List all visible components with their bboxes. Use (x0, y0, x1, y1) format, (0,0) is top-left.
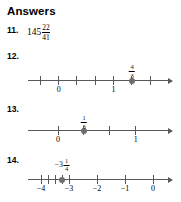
fraction-numerator: 22 (42, 24, 51, 32)
fraction-numerator: 4 (130, 64, 134, 71)
axis-tick (135, 126, 136, 135)
axis-tick (40, 76, 41, 85)
axis-tick (58, 126, 59, 135)
axis-tick (58, 76, 59, 85)
axis-tick-label: −2 (93, 184, 102, 193)
plotted-point-label: −314 (55, 153, 70, 173)
arrow-right-icon (168, 128, 173, 134)
fraction: 43 (129, 64, 135, 79)
fraction-denominator: 41 (42, 33, 51, 41)
fraction-denominator: 3 (82, 123, 86, 130)
axis-tick-label: −4 (37, 184, 46, 193)
number-line-axis (28, 179, 169, 180)
plotted-point (59, 177, 65, 183)
fraction-denominator: 4 (64, 166, 68, 173)
axis-tick (69, 175, 70, 184)
axis-tick-label: 0 (57, 85, 61, 94)
mixed-number-whole-part: 145 (27, 28, 41, 38)
axis-tick (76, 76, 77, 85)
plotted-point-label: 13 (81, 106, 88, 130)
point-value-label: 13 (81, 115, 88, 130)
number-line-axis (28, 80, 169, 81)
axis-tick (41, 175, 42, 184)
axis-tick-label: 0 (56, 135, 60, 144)
axis-tick (48, 175, 49, 184)
fraction-denominator: 3 (130, 72, 134, 79)
fraction: 22 41 (42, 24, 51, 41)
mixed-number-whole-part: 3 (59, 161, 63, 169)
item-number-14: 14. (7, 155, 19, 165)
axis-tick (150, 76, 151, 85)
axis-tick-label: −3 (65, 184, 74, 193)
axis-tick (55, 175, 56, 184)
arrow-right-icon (168, 78, 173, 84)
point-value-label: 43 (129, 64, 136, 79)
number-line-14: −4−3−2−10−314 (28, 150, 176, 196)
axis-tick-label: 1 (134, 135, 138, 144)
page-title: Answers (7, 5, 56, 17)
plotted-point-label: 43 (129, 55, 136, 79)
axis-tick (109, 126, 110, 135)
axis-tick-label: −1 (121, 184, 130, 193)
axis-tick (113, 76, 114, 85)
axis-tick (125, 175, 126, 184)
axis-tick (153, 175, 154, 184)
axis-tick (95, 76, 96, 85)
arrow-right-icon (168, 177, 173, 183)
point-value-label: −314 (55, 158, 70, 173)
axis-tick (97, 175, 98, 184)
fraction: 13 (81, 115, 87, 130)
item-number-12: 12. (7, 51, 19, 61)
axis-tick-label: 0 (151, 184, 155, 193)
fraction: 14 (64, 158, 70, 173)
fraction-numerator: 1 (82, 115, 86, 122)
answers-page: Answers 11. 145 22 41 12. 0143 13. 0113 … (0, 0, 181, 202)
number-line-axis (28, 130, 169, 131)
item-number-13: 13. (7, 104, 19, 114)
item-number-11: 11. (7, 25, 18, 35)
item-11-answer: 145 22 41 (27, 24, 50, 41)
number-line-13: 0113 (28, 106, 176, 146)
fraction-numerator: 1 (64, 158, 68, 165)
axis-tick-label: 1 (112, 85, 116, 94)
number-line-12: 0143 (28, 55, 176, 95)
